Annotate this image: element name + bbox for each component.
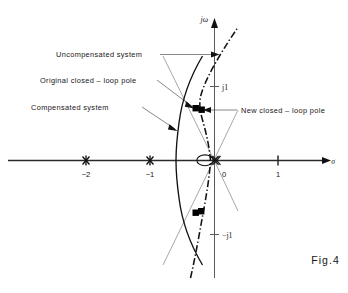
damping-ray-lower-right xyxy=(214,160,238,211)
damping-ray-lower-left xyxy=(163,160,214,265)
leader-original-pole-arrowhead xyxy=(185,101,195,108)
imaginary-tick-label-j1: j1 xyxy=(221,83,228,92)
annotation-compensated-system: Compensated system xyxy=(31,103,109,112)
root-locus-canvas: σ jω −2 −1 0 1 j1 −j1 xyxy=(0,0,348,293)
new-closed-loop-pole-marker-conjugate xyxy=(198,208,204,214)
leader-compensated-arrowhead xyxy=(168,124,178,131)
leader-uncompensated-arrowhead xyxy=(211,52,220,58)
real-axis-label: σ xyxy=(331,157,335,166)
figure-caption: Fig.4 xyxy=(311,254,340,266)
original-closed-loop-pole-marker-conjugate xyxy=(193,210,199,216)
damping-ray-upper-left xyxy=(163,56,214,160)
annotation-original-closed-loop-pole: Original closed – loop pole xyxy=(40,76,137,85)
figure-root-locus-plot: σ jω −2 −1 0 1 j1 −j1 xyxy=(0,0,348,293)
real-tick-label-1: 1 xyxy=(276,170,280,179)
real-tick-label--2: −2 xyxy=(82,170,91,179)
real-tick-label--1: −1 xyxy=(146,170,155,179)
damping-ray-upper-right xyxy=(214,110,238,160)
imaginary-axis-label: jω xyxy=(200,15,209,24)
annotation-uncompensated-system: Uncompensated system xyxy=(56,50,142,59)
imaginary-axis-arrowhead xyxy=(211,18,218,28)
imaginary-tick-label--j1: −j1 xyxy=(222,231,233,240)
annotation-new-closed-loop-pole: New closed – loop pole xyxy=(241,106,325,115)
real-axis-arrowhead xyxy=(322,157,331,164)
